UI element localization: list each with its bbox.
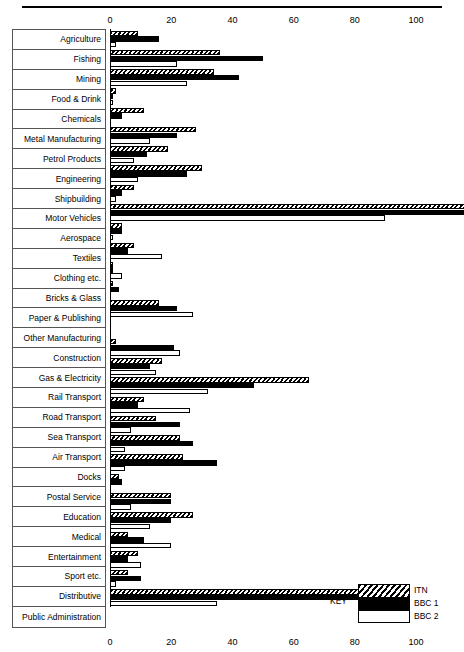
bar-bbc1 <box>110 537 144 542</box>
legend: KEY ITN BBC 1 BBC 2 <box>330 580 456 628</box>
bar-itn <box>110 551 138 556</box>
bar-itn <box>110 108 144 113</box>
bar-bbc2 <box>110 81 187 86</box>
bar-bbc1 <box>110 75 239 80</box>
bar-itn <box>110 512 193 517</box>
bar-bbc1 <box>110 133 177 138</box>
bar-bbc2 <box>110 61 177 66</box>
legend-swatch-itn <box>358 584 410 597</box>
category-label: Air Transport <box>13 448 105 468</box>
x-tick-label: 20 <box>166 14 176 26</box>
bar-itn <box>110 127 196 132</box>
bar-bbc2 <box>110 427 131 432</box>
bar-bbc2 <box>110 312 193 317</box>
legend-labels: ITN BBC 1 BBC 2 <box>414 584 439 623</box>
bar-itn: ►196 <box>110 204 464 209</box>
category-label: Public Administration <box>13 607 105 627</box>
bar-bbc1 <box>110 267 113 272</box>
legend-label-bbc1: BBC 1 <box>414 597 439 610</box>
bar-bbc2 <box>110 543 171 548</box>
category-label: Paper & Publishing <box>13 308 105 328</box>
x-tick-label: 60 <box>289 636 299 648</box>
plot-area: ►196►214 <box>110 29 462 607</box>
bar-bbc1 <box>110 383 254 388</box>
bar-bbc1 <box>110 518 171 523</box>
bar-bbc1 <box>110 441 193 446</box>
bar-itn <box>110 377 309 382</box>
bar-bbc2 <box>110 196 116 201</box>
x-tick-label: 100 <box>409 14 424 26</box>
bar-itn <box>110 358 162 363</box>
category-label: Metal Manufacturing <box>13 129 105 149</box>
x-tick-label: 0 <box>107 636 112 648</box>
bar-bbc1 <box>110 364 150 369</box>
legend-label-bbc2: BBC 2 <box>414 610 439 623</box>
bar-group <box>110 183 462 203</box>
bar-bbc2 <box>110 42 116 47</box>
category-label: Shipbuilding <box>13 189 105 209</box>
bar-itn <box>110 570 128 575</box>
x-tick-label: 80 <box>350 14 360 26</box>
x-tick-label: 40 <box>227 14 237 26</box>
bar-bbc1 <box>110 306 177 311</box>
bar-bbc2 <box>110 254 162 259</box>
x-tick-label: 100 <box>409 636 424 648</box>
bar-bbc2 <box>110 138 150 143</box>
bar-group <box>110 491 462 511</box>
category-label: Mining <box>13 70 105 90</box>
bar-group <box>110 453 462 473</box>
bar-group <box>110 549 462 569</box>
header-rule <box>22 6 442 8</box>
bar-bbc2 <box>110 601 217 606</box>
x-axis-top: 020406080100 <box>0 14 464 26</box>
category-label: Petrol Products <box>13 149 105 169</box>
bar-itn <box>110 146 168 151</box>
bar-itn <box>110 262 113 267</box>
bar-group <box>110 337 462 357</box>
bar-bbc2 <box>110 504 131 509</box>
x-axis-bottom: 020406080100 <box>0 636 464 648</box>
bar-group <box>110 106 462 126</box>
legend-label-itn: ITN <box>414 584 439 597</box>
bar-bbc1 <box>110 460 217 465</box>
bar-itn <box>110 454 183 459</box>
bar-itn <box>110 493 171 498</box>
bar-itn <box>110 243 134 248</box>
bar-group <box>110 48 462 68</box>
bar-itn <box>110 397 144 402</box>
x-tick-label: 60 <box>289 14 299 26</box>
bar-itn <box>110 223 122 228</box>
x-tick-label: 40 <box>227 636 237 648</box>
category-label: Road Transport <box>13 408 105 428</box>
x-tick-label: 20 <box>166 636 176 648</box>
bar-itn <box>110 435 180 440</box>
category-label: Medical <box>13 527 105 547</box>
bar-group <box>110 68 462 88</box>
bar-bbc1 <box>110 345 174 350</box>
bar-bbc1 <box>110 287 119 292</box>
category-label: Sea Transport <box>13 428 105 448</box>
bar-group <box>110 414 462 434</box>
bar-bbc2 <box>110 408 190 413</box>
bar-itn <box>110 281 113 286</box>
category-label: Agriculture <box>13 30 105 50</box>
category-label: Bricks & Glass <box>13 289 105 309</box>
bar-group <box>110 434 462 454</box>
bar-itn <box>110 69 214 74</box>
bar-group <box>110 279 462 299</box>
bar-group <box>110 29 462 49</box>
bar-bbc1: ►214 <box>110 210 464 215</box>
bar-group <box>110 376 462 396</box>
bar-bbc2 <box>110 215 385 220</box>
bar-bbc1 <box>110 576 141 581</box>
bar-bbc2 <box>110 447 125 452</box>
bar-bbc1 <box>110 499 171 504</box>
bar-bbc2 <box>110 235 113 240</box>
bar-bbc1 <box>110 479 122 484</box>
bar-itn <box>110 165 202 170</box>
category-label: Chemicals <box>13 110 105 130</box>
bar-bbc1 <box>110 556 128 561</box>
category-label: Entertainment <box>13 547 105 567</box>
bar-itn <box>110 50 220 55</box>
category-label: Engineering <box>13 169 105 189</box>
